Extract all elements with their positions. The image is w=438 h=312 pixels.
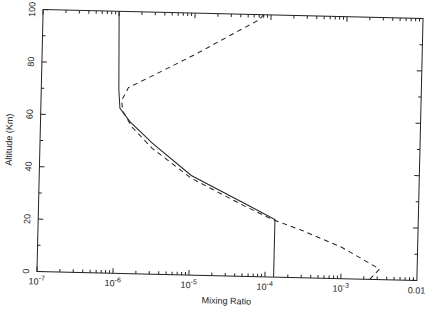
y-tick-label: 100 — [27, 2, 37, 17]
y-tick-label: 80 — [26, 57, 36, 67]
data-series — [113, 11, 385, 279]
solid-line — [113, 11, 280, 277]
y-tick-label: 0 — [21, 269, 31, 274]
x-tick-label: 10-6 — [104, 276, 121, 288]
plot-area: 10-710-610-510-410-30.01 020406080100 Mi… — [0, 1, 432, 310]
x-tick-label: 0.01 — [408, 285, 426, 295]
y-axis-title: Altitude (Km) — [3, 114, 14, 166]
x-axis-title: Mixing Ratio — [201, 295, 251, 306]
y-axis-ticks — [37, 10, 423, 281]
x-tick-label: 10-3 — [332, 281, 349, 293]
y-tick-label: 20 — [22, 214, 32, 224]
dashed-line — [118, 11, 386, 279]
x-tick-label: 10-4 — [256, 280, 273, 292]
y-tick-label: 60 — [25, 109, 35, 119]
x-axis-tick-labels: 10-710-610-510-410-30.01 — [28, 274, 425, 295]
y-axis-tick-labels: 020406080100 — [21, 2, 37, 274]
y-tick-label: 40 — [23, 161, 33, 171]
x-tick-label: 10-5 — [180, 278, 197, 290]
x-axis-ticks — [37, 10, 420, 281]
x-tick-label: 10-7 — [28, 274, 45, 286]
plot-frame — [37, 10, 423, 281]
chart: 10-710-610-510-410-30.01 020406080100 Mi… — [0, 0, 438, 312]
